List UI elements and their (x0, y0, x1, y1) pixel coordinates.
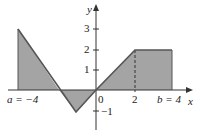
y-axis-arrow-icon (93, 4, 99, 11)
y-axis-label: y (87, 4, 92, 15)
graph-canvas (0, 0, 200, 132)
b-endpoint-label: b = 4 (157, 94, 181, 105)
x-axis-label: x (188, 96, 193, 107)
shaded-area-negative (59, 90, 96, 112)
x-tick-label-0: 0 (98, 94, 104, 105)
x-axis-arrow-icon (186, 87, 193, 93)
y-tick-label-2: 2 (84, 44, 90, 55)
x-tick-label-2: 2 (132, 94, 138, 105)
shaded-area-right (96, 50, 172, 90)
y-tick-label-1: 1 (84, 64, 90, 75)
y-tick-label-neg1: −1 (101, 106, 113, 117)
a-endpoint-label: a = −4 (7, 94, 38, 105)
y-tick-label-3: 3 (84, 23, 90, 34)
